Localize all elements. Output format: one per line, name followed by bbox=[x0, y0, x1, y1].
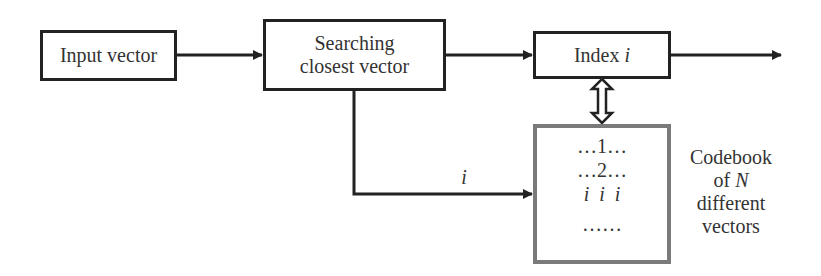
input-vector-label: Input vector bbox=[60, 44, 157, 67]
double-arrow-index-codebook bbox=[592, 79, 612, 123]
index-var: i bbox=[624, 44, 630, 67]
arrow-search-to-codebook bbox=[354, 90, 532, 194]
input-vector-box: Input vector bbox=[40, 30, 177, 81]
search-label-line1: Searching bbox=[315, 32, 395, 55]
search-label-line2: closest vector bbox=[300, 55, 409, 78]
caption-line2: of N bbox=[676, 169, 786, 192]
caption-line3: different bbox=[676, 192, 786, 215]
codebook-box: …1… …2… i i i …… bbox=[533, 124, 671, 264]
caption-n: N bbox=[735, 169, 748, 191]
caption-of: of bbox=[713, 169, 735, 191]
index-box: Index i bbox=[533, 31, 671, 79]
codebook-caption: Codebook of N different vectors bbox=[676, 146, 786, 238]
codebook-row-i: i i i bbox=[584, 182, 621, 206]
index-label: Index bbox=[574, 44, 620, 67]
codebook-row-2: …2… bbox=[577, 158, 627, 182]
codebook-row-1: …1… bbox=[577, 134, 627, 158]
codebook-row-dots: …… bbox=[582, 212, 622, 236]
caption-line4: vectors bbox=[676, 215, 786, 238]
searching-closest-vector-box: Searching closest vector bbox=[263, 19, 446, 91]
edge-label-i: i bbox=[457, 166, 471, 189]
caption-line1: Codebook bbox=[676, 146, 786, 169]
